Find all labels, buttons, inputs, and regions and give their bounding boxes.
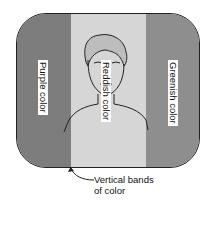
caption-line1: Vertical bands: [94, 174, 154, 185]
caption: Vertical bands of color: [94, 174, 154, 196]
arrow: [71, 168, 94, 180]
label-reddish: Reddish color: [101, 60, 111, 122]
caption-line2: of color: [94, 185, 154, 196]
label-purple: Purple color: [38, 60, 48, 115]
label-greenish: Greenish color: [168, 60, 178, 126]
